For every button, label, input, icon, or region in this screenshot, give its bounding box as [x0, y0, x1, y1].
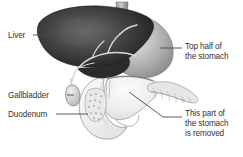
label-liver: Liver	[8, 31, 25, 41]
label-removed-line3: is removed	[185, 129, 229, 139]
pancreas-head-shape	[85, 88, 106, 121]
anatomy-figure: Liver Gallbladder Duodenum Top half of t…	[0, 0, 243, 157]
label-gallbladder: Gallbladder	[8, 91, 49, 101]
pancreas-tail-shape	[147, 82, 197, 103]
label-removed-part: This part of the stomach is removed	[185, 109, 229, 140]
label-top-half-of-stomach: Top half of the stomach	[185, 42, 229, 62]
label-gallbladder-text: Gallbladder	[8, 91, 49, 100]
gallbladder-shape	[66, 78, 80, 106]
label-liver-text: Liver	[8, 31, 25, 40]
label-top-half-line1: Top half of	[185, 42, 229, 52]
label-removed-line2: the stomach	[185, 119, 229, 129]
label-duodenum: Duodenum	[8, 110, 47, 120]
label-removed-line1: This part of	[185, 109, 229, 119]
label-duodenum-text: Duodenum	[8, 110, 47, 119]
label-top-half-line2: the stomach	[185, 52, 229, 62]
